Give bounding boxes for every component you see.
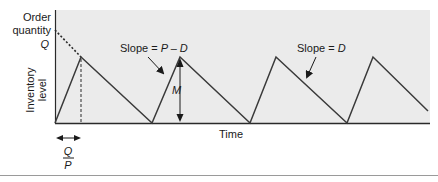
q-over-p-denominator: P <box>64 159 72 171</box>
q-over-p-numerator: Q <box>64 145 73 157</box>
max-inventory-label: M <box>172 84 182 96</box>
q-over-p-arrowhead-right <box>74 135 81 141</box>
figure-bottom-separator <box>0 175 438 176</box>
y-axis-label-inventory: Inventory <box>24 67 36 113</box>
q-over-p-arrowhead-left <box>56 135 63 141</box>
inventory-sawtooth-diagram: M Slope = P – D Slope = D Order quantity… <box>0 0 438 182</box>
slope-down-label: Slope = D <box>297 42 346 54</box>
slope-up-label: Slope = P – D <box>120 42 188 54</box>
x-axis-label: Time <box>219 128 243 140</box>
y-axis-label-level: level <box>36 79 48 102</box>
y-axis-q-label: Q <box>40 38 49 50</box>
plot-area <box>55 10 430 123</box>
y-axis-label-quantity: quantity <box>12 24 51 36</box>
y-axis-label-order: Order <box>23 11 51 23</box>
